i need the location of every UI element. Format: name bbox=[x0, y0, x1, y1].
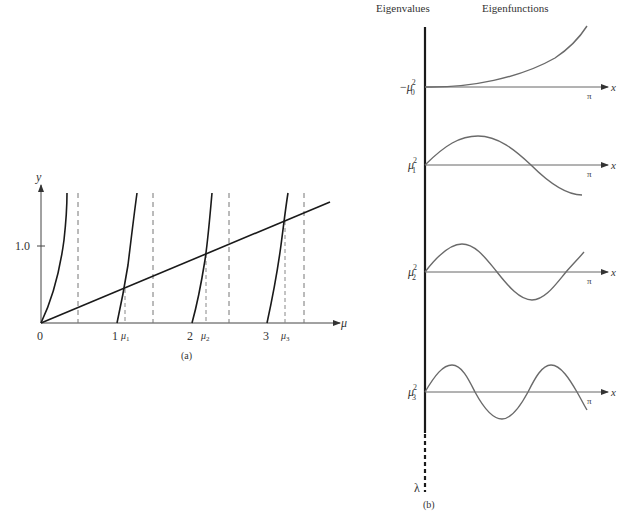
eigenfunction-0 bbox=[425, 26, 587, 87]
y-tick-label: 1.0 bbox=[15, 239, 30, 253]
axis-end-labels: x x x x π π π π bbox=[587, 81, 616, 406]
root-droplines bbox=[125, 221, 285, 323]
root-label-mu2: μ2 bbox=[200, 330, 210, 343]
pi-label-1: π bbox=[587, 169, 592, 179]
header-eigenvalues: Eigenvalues bbox=[376, 2, 430, 14]
x-tick-3: 3 bbox=[263, 329, 269, 343]
eigenvalue-labels: −μ20 μ21 μ22 μ23 bbox=[400, 78, 417, 402]
header-eigenfunctions: Eigenfunctions bbox=[482, 2, 549, 14]
eigenvalue-2: μ22 bbox=[407, 263, 417, 282]
eigen-baselines bbox=[425, 87, 608, 392]
x-label-0: x bbox=[610, 81, 616, 93]
x-axis-label: μ bbox=[340, 316, 347, 330]
root-label-mu1: μ1 bbox=[120, 330, 130, 343]
asymptotes bbox=[78, 193, 304, 323]
pi-label-2: π bbox=[587, 276, 592, 286]
caption-b: (b) bbox=[423, 499, 435, 511]
caption-a: (a) bbox=[181, 350, 192, 362]
eigenfunctions bbox=[425, 26, 587, 419]
lambda-label: λ bbox=[414, 481, 420, 495]
eigenvalue-0: −μ20 bbox=[400, 78, 416, 97]
figure: y 1.0 μ 0 1 2 3 μ1 μ2 μ3 (a) Eigenvalues… bbox=[0, 0, 638, 529]
pi-label-3: π bbox=[587, 396, 592, 406]
root-label-mu3: μ3 bbox=[280, 330, 290, 343]
panel-b: Eigenvalues Eigenfunctions λ −μ20 μ21 μ2… bbox=[376, 2, 616, 511]
x-label-3: x bbox=[610, 386, 616, 398]
x-tick-2: 2 bbox=[187, 329, 193, 343]
pi-label-0: π bbox=[587, 91, 592, 101]
x-tick-1: 1 bbox=[112, 329, 118, 343]
line-y-equals-mu-over-k bbox=[41, 202, 330, 323]
eigenvalue-1: μ21 bbox=[407, 156, 417, 175]
panel-a: y 1.0 μ 0 1 2 3 μ1 μ2 μ3 (a) bbox=[15, 170, 347, 362]
eigenvalue-3: μ23 bbox=[407, 383, 417, 402]
x-label-1: x bbox=[610, 159, 616, 171]
x-label-2: x bbox=[610, 266, 616, 278]
y-axis-label: y bbox=[35, 170, 42, 184]
x-tick-0: 0 bbox=[37, 329, 43, 343]
